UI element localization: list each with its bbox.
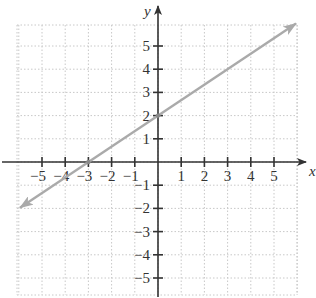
x-tick-label: 5 xyxy=(270,168,278,184)
x-tick-label: 1 xyxy=(177,168,185,184)
y-tick-label: 1 xyxy=(143,131,151,147)
x-tick-label: 4 xyxy=(247,168,255,184)
x-tick-label: −2 xyxy=(100,168,116,184)
y-tick-label: −3 xyxy=(134,224,150,240)
x-tick-label: 3 xyxy=(224,168,232,184)
y-axis-label: y xyxy=(142,3,151,19)
y-tick-label: −2 xyxy=(134,200,150,216)
y-tick-label: 3 xyxy=(143,84,151,100)
y-tick-label: −5 xyxy=(134,270,150,286)
plotted-point xyxy=(156,113,160,117)
y-tick-label: −4 xyxy=(134,247,150,263)
x-axis-label: x xyxy=(308,163,316,179)
graph-svg: −5−4−3−2−112345−5−4−3−2−112345 x y xyxy=(0,0,316,298)
y-tick-label: 5 xyxy=(143,38,151,54)
y-tick-label: 4 xyxy=(143,61,151,77)
y-tick-label: −1 xyxy=(134,177,150,193)
axes xyxy=(2,6,306,297)
plotted-point xyxy=(86,160,90,164)
x-tick-label: −5 xyxy=(30,168,46,184)
x-tick-label: 2 xyxy=(201,168,209,184)
coordinate-plane: −5−4−3−2−112345−5−4−3−2−112345 x y xyxy=(0,0,316,298)
x-tick-label: −3 xyxy=(76,168,92,184)
